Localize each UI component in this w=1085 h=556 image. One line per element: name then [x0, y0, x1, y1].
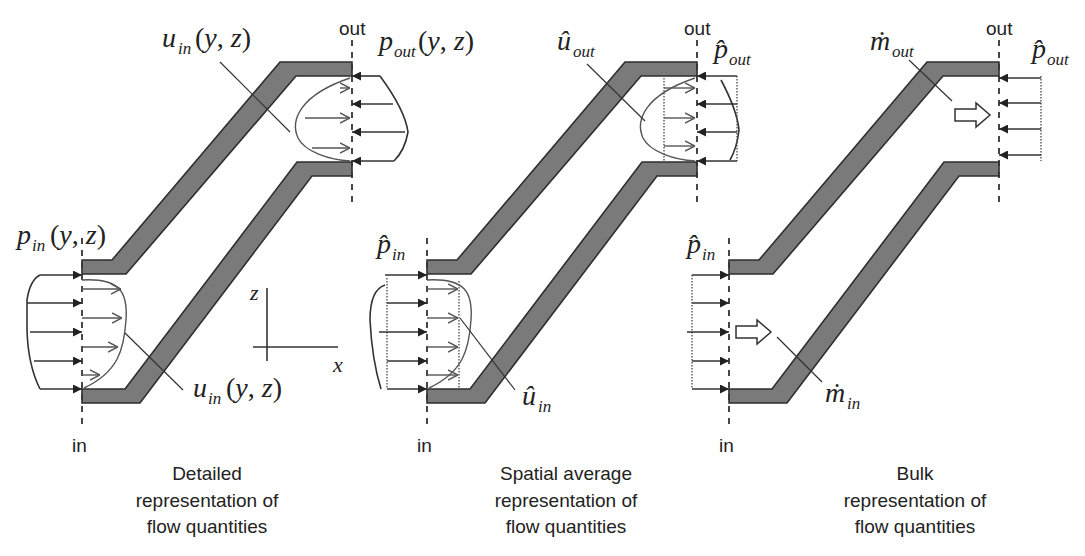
svg-text:out: out [1047, 50, 1070, 69]
label-u-in-bottom: u in (y, z) [193, 372, 282, 408]
label-m-in: ṁ in [825, 377, 860, 413]
svg-text:(y, z): (y, z) [50, 219, 106, 250]
label-p-in: p in (y, z) [15, 219, 106, 255]
caption-bulk: Bulk representation of flow quantities [844, 463, 987, 537]
svg-text:u: u [193, 372, 207, 403]
label-p-out: p̂ out [712, 33, 752, 69]
out-label: out [339, 18, 366, 39]
inlet-mass-flow-arrow [736, 320, 771, 344]
svg-text:out: out [892, 42, 915, 61]
flow-representation-diagram: z x out in u in (y, z) p out (y, z) p in… [0, 0, 1085, 556]
svg-text:û: û [522, 380, 536, 411]
svg-text:(y, z): (y, z) [195, 22, 251, 53]
svg-text:in: in [702, 245, 715, 264]
axis-x-label: x [332, 352, 343, 377]
inlet-velocity-profile [427, 280, 471, 389]
svg-text:ṁ: ṁ [870, 25, 890, 56]
panel-bulk: out in ṁ out p̂ out p̂ in ṁ in Bulk repr… [685, 18, 1070, 537]
label-m-out: ṁ out [870, 25, 915, 61]
svg-text:u: u [162, 22, 176, 53]
label-p-in: p̂ in [685, 228, 715, 264]
axis-z-label: z [249, 280, 259, 305]
svg-text:flow quantities: flow quantities [855, 516, 975, 537]
inlet-velocity-profile [82, 280, 126, 388]
svg-text:p̂: p̂ [712, 33, 728, 64]
label-u-out: û out [557, 25, 596, 61]
svg-text:p̂: p̂ [375, 228, 391, 259]
out-label: out [986, 18, 1013, 39]
svg-text:in: in [847, 394, 860, 413]
panel-spatial-average: out in û out p̂ out p̂ in û in Spatial a… [370, 18, 752, 537]
in-label: in [417, 435, 432, 456]
label-p-in: p̂ in [375, 228, 405, 264]
svg-text:(y, z): (y, z) [226, 372, 282, 403]
outlet-pressure-arrows [697, 76, 739, 161]
svg-text:flow quantities: flow quantities [147, 516, 267, 537]
caption-spatial-average: Spatial average representation of flow q… [495, 463, 638, 537]
svg-text:out: out [394, 42, 417, 61]
svg-text:out: out [573, 42, 596, 61]
svg-text:in: in [178, 39, 191, 58]
svg-text:Spatial average: Spatial average [500, 463, 632, 484]
svg-text:representation of: representation of [844, 490, 987, 511]
svg-text:Bulk: Bulk [897, 463, 934, 484]
svg-text:ṁ: ṁ [825, 377, 845, 408]
outlet-mass-flow-arrow [955, 103, 990, 127]
label-u-in-top: u in (y, z) [162, 22, 251, 58]
inlet-pressure-arrows [370, 275, 427, 389]
inlet-pressure-arrows [27, 275, 82, 389]
svg-text:representation of: representation of [136, 490, 279, 511]
svg-text:in: in [208, 389, 221, 408]
svg-text:in: in [392, 245, 405, 264]
svg-text:out: out [729, 50, 752, 69]
svg-text:û: û [557, 25, 571, 56]
in-label: in [72, 435, 87, 456]
svg-text:in: in [538, 397, 551, 416]
svg-text:(y, z): (y, z) [418, 25, 474, 56]
svg-text:representation of: representation of [495, 490, 638, 511]
outlet-pressure-arrows [999, 76, 1041, 161]
label-p-out: p out (y, z) [377, 25, 474, 61]
caption-detailed: Detailed representation of flow quantiti… [136, 463, 279, 537]
outlet-pressure-arrows [352, 76, 408, 161]
outlet-velocity-profile [296, 78, 350, 161]
channel-walls [729, 40, 999, 430]
inlet-pressure-arrows [687, 275, 729, 389]
svg-text:in: in [32, 236, 45, 255]
coordinate-axes: z x [249, 280, 343, 377]
in-label: in [719, 435, 734, 456]
label-p-out: p̂ out [1030, 33, 1070, 69]
svg-text:flow quantities: flow quantities [506, 516, 626, 537]
svg-text:p: p [15, 219, 31, 250]
label-u-in: û in [522, 380, 551, 416]
out-label: out [684, 18, 711, 39]
panel-detailed: z x out in u in (y, z) p out (y, z) p in… [15, 18, 474, 537]
svg-text:Detailed: Detailed [172, 463, 242, 484]
svg-text:p̂: p̂ [685, 228, 701, 259]
svg-text:p: p [377, 25, 393, 56]
outlet-velocity-profile [641, 78, 695, 161]
svg-text:p̂: p̂ [1030, 33, 1046, 64]
